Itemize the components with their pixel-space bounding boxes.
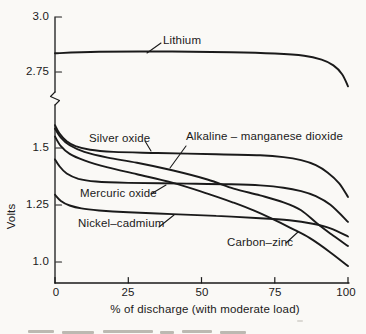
x-tick-label-50: 50 bbox=[187, 286, 217, 299]
y-tick-label-1-25: 1.25 bbox=[17, 198, 49, 211]
x-tick-label-25: 25 bbox=[113, 286, 143, 299]
leader-line-alkaline bbox=[170, 146, 186, 168]
caption-smudge bbox=[182, 330, 212, 333]
series-curve-lithium bbox=[55, 52, 348, 87]
series-curve-nickel-cadmium bbox=[55, 195, 348, 237]
discharge-chart-svg bbox=[0, 0, 366, 334]
x-tick-label-75: 75 bbox=[260, 286, 290, 299]
x-tick-label-100: 100 bbox=[331, 286, 361, 299]
series-label-mercuric-oxide: Mercuric oxide bbox=[80, 187, 157, 200]
y-axis-break-icon bbox=[51, 92, 60, 105]
y-axis-title: Volts bbox=[5, 194, 18, 240]
caption-smudge bbox=[28, 330, 54, 333]
caption-smudge bbox=[103, 330, 153, 333]
series-label-alkaline: Alkaline – manganese dioxide bbox=[186, 130, 343, 143]
x-tick-label-0: 0 bbox=[41, 286, 71, 299]
series-label-lithium: Lithium bbox=[163, 34, 201, 47]
series-label-carbon-zinc: Carbon–zinc bbox=[227, 236, 293, 249]
series-label-nickel-cadmium: Nickel–cadmium bbox=[78, 217, 164, 230]
series-label-silver-oxide: Silver oxide bbox=[89, 132, 150, 145]
y-tick-label-1-5: 1.5 bbox=[17, 141, 49, 154]
caption-smudge bbox=[297, 320, 303, 322]
y-tick-label-3-0: 3.0 bbox=[17, 10, 49, 23]
battery-discharge-figure: 3.0 2.75 1.5 1.25 1.0 0 25 50 75 100 Vol… bbox=[0, 0, 366, 334]
x-axis-title: % of discharge (with moderate load) bbox=[55, 303, 355, 316]
y-tick-label-1-0: 1.0 bbox=[17, 255, 49, 268]
y-tick-label-2-75: 2.75 bbox=[17, 65, 49, 78]
